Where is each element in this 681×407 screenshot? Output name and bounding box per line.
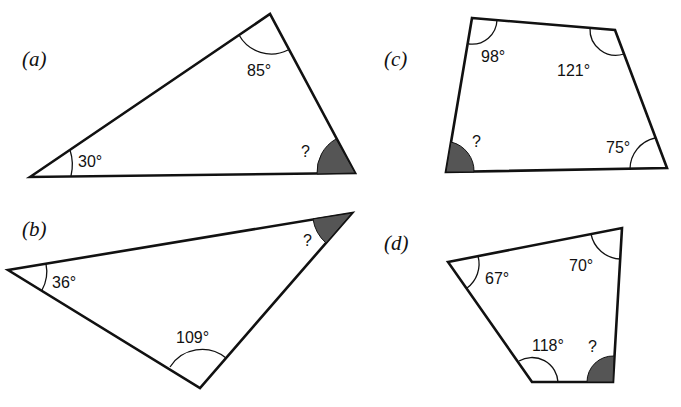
unknown-mark-b: ? — [303, 232, 312, 249]
triangle-b — [8, 213, 352, 388]
angle-value-85: 85° — [247, 62, 271, 79]
figure-d: (d) 67° 70° 118° ? — [384, 228, 622, 382]
angle-value-118: 118° — [532, 337, 564, 354]
angle-arc-36 — [42, 264, 47, 290]
angle-value-30: 30° — [78, 153, 102, 170]
angle-arc-98 — [469, 20, 497, 44]
figure-label-d: (d) — [384, 231, 409, 255]
angle-arc-70 — [591, 234, 620, 259]
angle-value-109: 109° — [176, 329, 209, 346]
angle-arc-30 — [70, 150, 72, 176]
angle-arc-109 — [170, 349, 226, 367]
angle-value-36: 36° — [52, 274, 76, 291]
unknown-mark-a: ? — [301, 143, 310, 160]
figure-a: (a) 30° 85° ? — [22, 14, 355, 177]
angle-arc-67 — [467, 256, 479, 288]
angle-arc-75 — [630, 138, 655, 169]
angle-arc-85 — [239, 35, 288, 54]
angle-value-67: 67° — [485, 270, 509, 287]
quadrilateral-d — [448, 228, 622, 382]
figure-label-c: (c) — [384, 47, 407, 71]
angle-value-121: 121° — [557, 62, 590, 79]
unknown-mark-c: ? — [472, 133, 481, 150]
figure-c: (c) 98° 121° 75° ? — [384, 18, 667, 172]
unknown-angle-c — [446, 142, 474, 172]
figure-label-b: (b) — [22, 217, 47, 241]
figure-b: (b) 36° 109° ? — [8, 213, 352, 388]
unknown-angle-d — [587, 356, 614, 382]
figure-label-a: (a) — [22, 47, 47, 71]
angle-value-75: 75° — [606, 139, 630, 156]
unknown-mark-d: ? — [588, 338, 597, 355]
unknown-angle-a — [317, 139, 355, 174]
angle-value-98: 98° — [481, 48, 505, 65]
angle-value-70: 70° — [569, 257, 593, 274]
angle-diagram: (a) 30° 85° ? (b) 36° 109° ? (c) — [0, 0, 681, 407]
